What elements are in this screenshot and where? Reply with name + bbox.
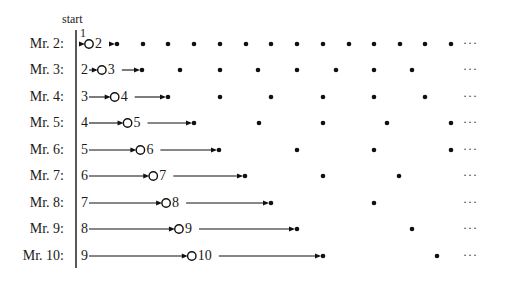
row-10-arrow-out-head-icon bbox=[315, 253, 321, 258]
row-3-dot-icon bbox=[410, 68, 415, 73]
row-5-dot-icon bbox=[385, 121, 390, 126]
row-2-dot-icon bbox=[398, 42, 403, 47]
row-4-arrow-in-head-icon bbox=[105, 94, 111, 99]
row-2-dot-icon bbox=[218, 42, 223, 47]
row-2-dot-icon bbox=[192, 42, 197, 47]
row-10-current-number: 10 bbox=[198, 249, 212, 263]
row-3-dot-icon bbox=[178, 68, 183, 73]
rows-group bbox=[79, 40, 453, 260]
row-8-arrow-out-head-icon bbox=[263, 200, 269, 205]
row-3-dot-icon bbox=[334, 68, 339, 73]
row-10-prev-number: 9 bbox=[81, 249, 88, 263]
row-5-prev-number: 4 bbox=[81, 116, 88, 130]
row-2-dot-icon bbox=[347, 42, 352, 47]
row-2-dot-icon bbox=[244, 42, 249, 47]
row-10-dot-icon bbox=[321, 254, 326, 259]
row-4-prev-number: 3 bbox=[81, 90, 88, 104]
row-6-dot-icon bbox=[449, 148, 454, 153]
row-7-prev-number: 6 bbox=[81, 169, 88, 183]
row-6-dot-icon bbox=[217, 148, 222, 153]
row-4-dot-icon bbox=[372, 95, 377, 100]
row-8-open-circle-icon bbox=[162, 199, 170, 207]
row-3-current-number: 3 bbox=[108, 63, 115, 77]
row-2-dot-icon bbox=[295, 42, 300, 47]
row-3-dot-icon bbox=[218, 68, 223, 73]
row-9-dot-icon bbox=[410, 227, 415, 232]
row-4-ellipsis: ··· bbox=[463, 89, 478, 103]
row-5-dot-icon bbox=[321, 121, 326, 126]
row-4-dot-icon bbox=[423, 95, 428, 100]
row-3-ellipsis: ··· bbox=[463, 62, 478, 76]
row-4-arrow-out-head-icon bbox=[160, 94, 166, 99]
row-5-dot-icon bbox=[449, 121, 454, 126]
row-2-dot-icon bbox=[141, 42, 146, 47]
row-3-dot-icon bbox=[256, 68, 261, 73]
row-2-arrow-out-head-icon bbox=[109, 41, 115, 46]
row-5-dot-icon bbox=[192, 121, 197, 126]
row-6-arrow-out-head-icon bbox=[211, 147, 217, 152]
row-9-ellipsis: ··· bbox=[463, 221, 478, 235]
row-8-ellipsis: ··· bbox=[463, 195, 478, 209]
row-3-dot-icon bbox=[372, 68, 377, 73]
row-4-dot-icon bbox=[321, 95, 326, 100]
row-2-dot-icon bbox=[449, 42, 454, 47]
row-10-ellipsis: ··· bbox=[463, 248, 478, 262]
row-8-prev-number: 7 bbox=[81, 196, 88, 210]
row-2-arrow-in-head-icon bbox=[79, 41, 85, 46]
row-2-open-circle-icon bbox=[85, 40, 93, 48]
mr-sequence-diagram: start 1 Mr. 2: Mr. 3: Mr. 4: Mr. 5: Mr. … bbox=[0, 0, 505, 281]
row-8-dot-icon bbox=[269, 201, 274, 206]
row-7-dot-icon bbox=[243, 174, 248, 179]
row-9-arrow-out-head-icon bbox=[289, 226, 295, 231]
row-2-dot-icon bbox=[372, 42, 377, 47]
row-5-current-number: 5 bbox=[134, 116, 141, 130]
row-3-arrow-out-head-icon bbox=[134, 67, 140, 72]
row-3-open-circle-icon bbox=[98, 66, 106, 74]
row-2-dot-icon bbox=[269, 42, 274, 47]
row-3-prev-number: 2 bbox=[81, 63, 88, 77]
row-5-arrow-in-head-icon bbox=[118, 120, 124, 125]
row-9-current-number: 9 bbox=[185, 222, 192, 236]
row-7-arrow-out-head-icon bbox=[237, 173, 243, 178]
row-8-current-number: 8 bbox=[172, 196, 179, 210]
row-2-dot-icon bbox=[115, 42, 120, 47]
row-8-dot-icon bbox=[372, 201, 377, 206]
row-5-ellipsis: ··· bbox=[463, 115, 478, 129]
row-5-open-circle-icon bbox=[123, 119, 131, 127]
row-2-dot-icon bbox=[321, 42, 326, 47]
row-6-prev-number: 5 bbox=[81, 143, 88, 157]
diagram-graphics bbox=[0, 0, 505, 281]
row-4-dot-icon bbox=[166, 95, 171, 100]
row-9-open-circle-icon bbox=[175, 225, 183, 233]
row-4-open-circle-icon bbox=[111, 93, 119, 101]
row-2-current-number: 2 bbox=[95, 37, 102, 51]
row-6-ellipsis: ··· bbox=[463, 142, 478, 156]
row-5-arrow-out-head-icon bbox=[186, 120, 192, 125]
row-10-dot-icon bbox=[435, 254, 440, 259]
row-6-current-number: 6 bbox=[146, 143, 153, 157]
row-9-dot-icon bbox=[295, 227, 300, 232]
row-6-dot-icon bbox=[295, 148, 300, 153]
row-7-dot-icon bbox=[397, 174, 402, 179]
row-3-arrow-in-head-icon bbox=[92, 67, 98, 72]
row-3-dot-icon bbox=[295, 68, 300, 73]
row-2-ellipsis: ··· bbox=[463, 36, 478, 50]
row-10-open-circle-icon bbox=[188, 252, 196, 260]
row-4-dot-icon bbox=[269, 95, 274, 100]
row-4-dot-icon bbox=[218, 95, 223, 100]
row-7-ellipsis: ··· bbox=[463, 168, 478, 182]
row-7-open-circle-icon bbox=[149, 172, 157, 180]
row-7-current-number: 7 bbox=[159, 169, 166, 183]
row-5-dot-icon bbox=[257, 121, 262, 126]
row-3-dot-icon bbox=[140, 68, 145, 73]
row-2-dot-icon bbox=[166, 42, 171, 47]
row-6-dot-icon bbox=[372, 148, 377, 153]
row-6-open-circle-icon bbox=[136, 146, 144, 154]
row-4-current-number: 4 bbox=[121, 90, 128, 104]
row-2-dot-icon bbox=[423, 42, 428, 47]
row-9-prev-number: 8 bbox=[81, 222, 88, 236]
row-7-dot-icon bbox=[321, 174, 326, 179]
